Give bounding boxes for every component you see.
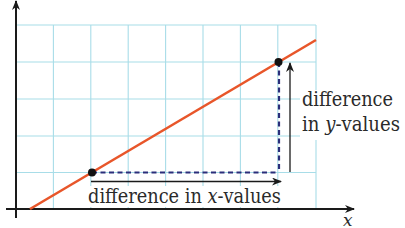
- y-difference-label-line2: in y-values: [302, 113, 400, 136]
- slope-diagram: difference in x-values difference in y-v…: [0, 0, 405, 228]
- x-axis-label: x: [343, 210, 353, 228]
- y-difference-label-line1: difference: [302, 88, 393, 111]
- point-2: [275, 58, 283, 66]
- linear-function-line: [30, 40, 316, 209]
- x-difference-label: difference in x-values: [88, 185, 281, 208]
- point-1: [88, 169, 96, 177]
